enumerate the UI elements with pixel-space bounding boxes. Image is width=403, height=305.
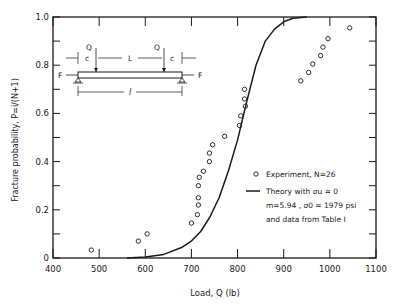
x-axis-label: Load, Q (lb) bbox=[190, 288, 240, 298]
data-point bbox=[207, 159, 211, 163]
x-tick-label: 600 bbox=[137, 264, 153, 274]
label-q-right: Q bbox=[154, 43, 160, 52]
label-c-left: c bbox=[85, 54, 89, 63]
data-point bbox=[318, 53, 322, 57]
data-point bbox=[326, 36, 330, 40]
x-tick-label: 400 bbox=[45, 264, 61, 274]
label-l-total: l bbox=[129, 88, 132, 97]
x-tick-label: 1100 bbox=[365, 264, 387, 274]
label-c-right: c bbox=[170, 54, 174, 63]
data-point bbox=[239, 114, 243, 118]
legend-label-experiment: Experiment, N=26 bbox=[266, 170, 336, 179]
y-tick-label: 1.0 bbox=[35, 12, 49, 22]
data-point bbox=[89, 248, 93, 252]
support-icon bbox=[75, 78, 81, 82]
data-point bbox=[207, 151, 211, 155]
data-point bbox=[210, 143, 214, 147]
y-axis-label: Fracture probability, P=i/(N+1) bbox=[11, 78, 20, 202]
label-f-right: F bbox=[198, 71, 202, 80]
data-point bbox=[311, 62, 315, 66]
data-point bbox=[189, 221, 193, 225]
data-point bbox=[347, 26, 351, 30]
y-tick-label: 0.4 bbox=[35, 157, 49, 167]
data-point bbox=[242, 87, 246, 91]
fracture-probability-chart: 4005006007008009001000110000.20.40.60.81… bbox=[0, 0, 403, 305]
legend: Experiment, N=26Theory with σu = 0m=5.94… bbox=[246, 170, 356, 224]
x-tick-label: 800 bbox=[229, 264, 245, 274]
data-point bbox=[196, 203, 200, 207]
data-point bbox=[197, 175, 201, 179]
support-icon bbox=[179, 78, 185, 82]
y-tick-label: 0.2 bbox=[35, 205, 49, 215]
data-point bbox=[306, 70, 310, 74]
data-point bbox=[196, 184, 200, 188]
legend-label-theory: Theory with σu = 0 bbox=[265, 187, 338, 196]
label-f-left: F bbox=[58, 71, 62, 80]
data-point bbox=[299, 79, 303, 83]
y-tick-label: 0 bbox=[44, 253, 49, 263]
data-point bbox=[196, 196, 200, 200]
data-point bbox=[195, 212, 199, 216]
data-point bbox=[321, 45, 325, 49]
x-tick-label: 500 bbox=[91, 264, 107, 274]
legend-circle-marker bbox=[254, 172, 258, 176]
y-tick-label: 0.6 bbox=[35, 108, 49, 118]
beam bbox=[78, 72, 182, 78]
x-tick-label: 900 bbox=[276, 264, 292, 274]
arrowhead bbox=[94, 68, 98, 72]
legend-label-theory: and data from Table I bbox=[266, 215, 346, 224]
label-q-left: Q bbox=[86, 43, 92, 52]
data-point bbox=[145, 232, 149, 236]
x-tick-label: 700 bbox=[183, 264, 199, 274]
label-L: L bbox=[128, 54, 133, 63]
y-tick-label: 0.8 bbox=[35, 60, 49, 70]
x-tick-label: 1000 bbox=[319, 264, 341, 274]
data-point bbox=[242, 97, 246, 101]
data-point bbox=[201, 169, 205, 173]
data-point bbox=[136, 239, 140, 243]
beam-inset-diagram: QQccLFFl bbox=[58, 43, 202, 97]
arrowhead bbox=[162, 68, 166, 72]
data-point bbox=[222, 134, 226, 138]
legend-label-theory: m=5.94 , σ0 = 1979 psi bbox=[266, 201, 356, 210]
